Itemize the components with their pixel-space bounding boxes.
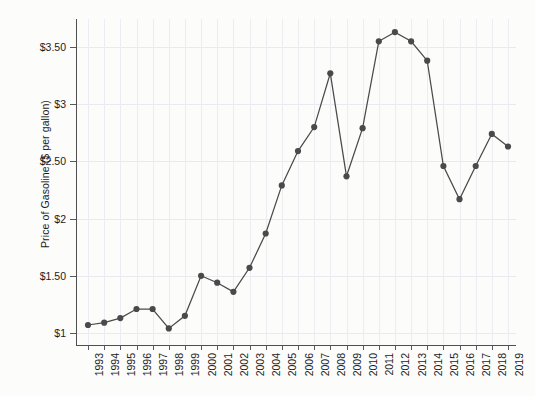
gasoline-price-line-chart: Price of Gasoline ($ per gallon) $1$1.50…	[0, 0, 535, 396]
data-point-2009	[343, 173, 349, 179]
data-point-2001	[214, 280, 220, 286]
data-point-2012	[392, 29, 398, 35]
series-markers	[85, 29, 511, 332]
data-point-1995	[117, 315, 123, 321]
data-point-2011	[376, 38, 382, 44]
data-point-2018	[489, 131, 495, 137]
data-point-2005	[279, 182, 285, 188]
data-point-1994	[101, 320, 107, 326]
series-line-gasoline-price	[88, 32, 508, 328]
data-point-2010	[360, 125, 366, 131]
series-plot-area	[0, 0, 535, 396]
data-point-2019	[505, 143, 511, 149]
data-point-2004	[263, 230, 269, 236]
data-point-2003	[246, 265, 252, 271]
data-point-1998	[166, 325, 172, 331]
data-point-2007	[311, 124, 317, 130]
data-point-2014	[424, 58, 430, 64]
data-point-1999	[182, 313, 188, 319]
data-point-2002	[230, 289, 236, 295]
data-point-2008	[327, 70, 333, 76]
data-point-2013	[408, 38, 414, 44]
data-point-1993	[85, 322, 91, 328]
data-point-2016	[456, 196, 462, 202]
data-point-2006	[295, 148, 301, 154]
data-point-1997	[150, 306, 156, 312]
data-point-1996	[133, 306, 139, 312]
data-point-2000	[198, 273, 204, 279]
data-point-2017	[473, 163, 479, 169]
data-point-2015	[440, 163, 446, 169]
